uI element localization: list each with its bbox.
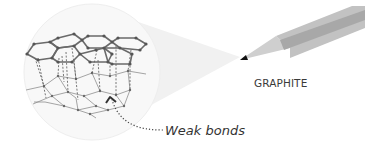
graphite-label: GRAPHITE bbox=[254, 77, 307, 89]
graphite-diagram: GRAPHITE Weak bonds bbox=[0, 0, 365, 156]
weak-bonds-label: Weak bonds bbox=[165, 123, 245, 138]
pencil bbox=[240, 6, 365, 60]
